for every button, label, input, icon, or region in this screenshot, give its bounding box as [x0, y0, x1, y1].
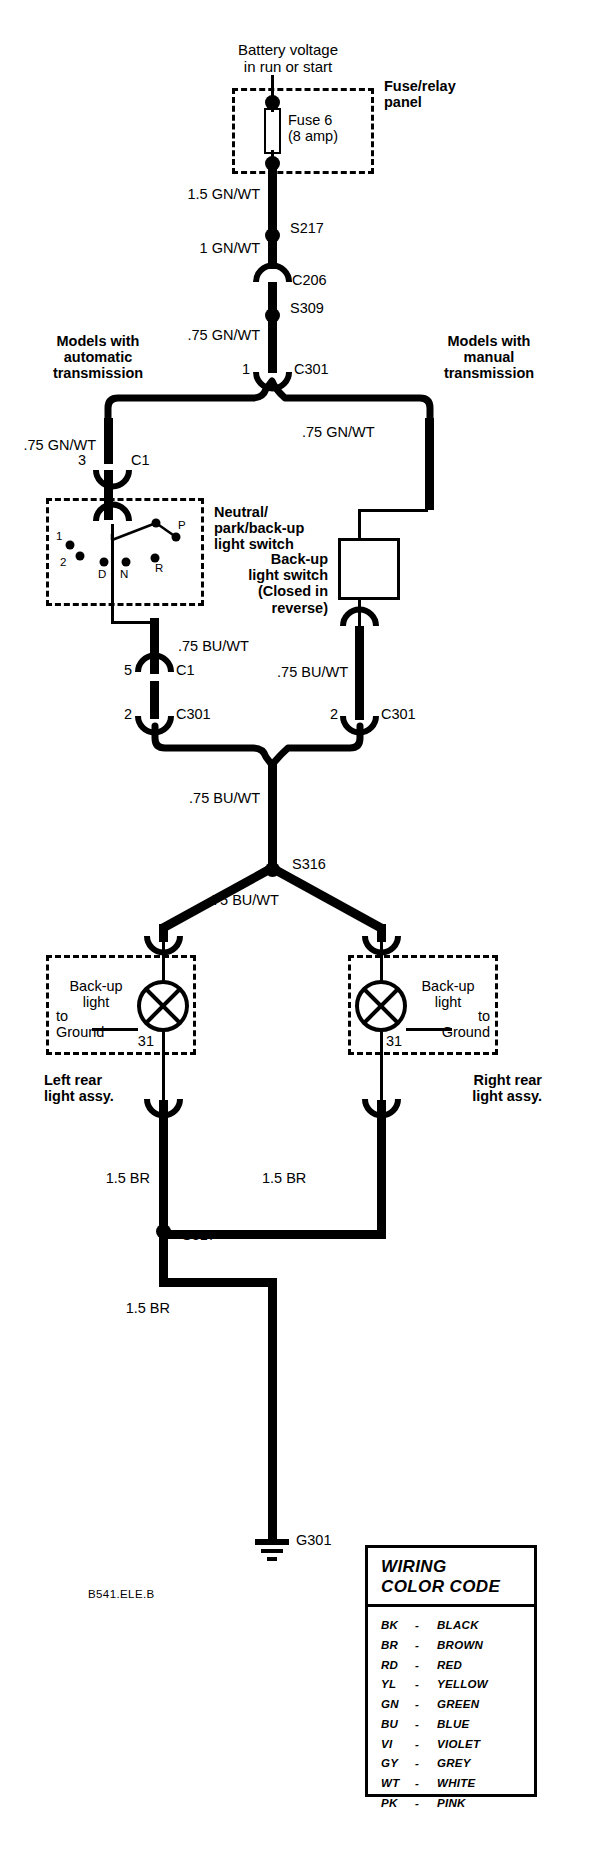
- legend-row: RD-RED: [381, 1656, 534, 1676]
- wire-auto-branch-down: [104, 418, 113, 464]
- legend-color-name: YELLOW: [437, 1675, 488, 1695]
- legend-dash: -: [415, 1735, 437, 1755]
- legend-color-name: PINK: [437, 1794, 466, 1814]
- label-s316: S316: [292, 856, 326, 872]
- switch-position-d: D: [98, 568, 106, 581]
- legend-dash: -: [415, 1636, 437, 1656]
- label-left-pin-31: 31: [118, 1033, 154, 1049]
- legend-dash: -: [415, 1774, 437, 1794]
- wire-auto-to-c301: [150, 681, 159, 719]
- legend-title-line2: COLOR CODE: [381, 1577, 534, 1597]
- legend-color-name: VIOLET: [437, 1735, 480, 1755]
- switch-position-1: 1: [56, 530, 62, 543]
- wire-label-left-1p5-br: 1.5 BR: [76, 1170, 150, 1186]
- legend-row: BR-BROWN: [381, 1636, 534, 1656]
- drawing-id: B541.ELE.B: [88, 1588, 155, 1601]
- label-c301-left: C301: [176, 706, 211, 722]
- wire-label-p75-buwt-trunk: .75 BU/WT: [172, 790, 260, 806]
- legend-row: GY-GREY: [381, 1754, 534, 1774]
- wire-1p5-gnwt: [268, 165, 277, 233]
- legend-row: BU-BLUE: [381, 1715, 534, 1735]
- label-c1-out: C1: [176, 662, 195, 678]
- label-c206: C206: [292, 272, 327, 288]
- label-c301-top: C301: [294, 361, 329, 377]
- wire-backup-switch-out: [358, 598, 361, 628]
- legend-color-name: RED: [437, 1656, 462, 1676]
- legend-dash: -: [415, 1675, 437, 1695]
- wire-to-ground-h: [159, 1278, 272, 1287]
- label-c301-right-pin: 2: [300, 706, 338, 722]
- legend-row: GN-GREEN: [381, 1695, 534, 1715]
- wire-left-1p5-br: [159, 1100, 168, 1238]
- wire-label-p75-buwt-split: .75 BU/WT: [208, 892, 279, 908]
- fuse-6-label: Fuse 6 (8 amp): [288, 112, 338, 144]
- switch-position-2: 2: [60, 556, 66, 569]
- legend-color-name: GREY: [437, 1754, 471, 1774]
- wire-1p5-br-ground: [268, 1278, 277, 1544]
- wire-1-gnwt: [268, 241, 277, 269]
- label-g301: G301: [296, 1532, 331, 1548]
- label-c1-in-pin: 3: [48, 452, 86, 468]
- label-models-manual: Models with manual transmission: [404, 333, 574, 382]
- label-c301-left-pin: 2: [94, 706, 132, 722]
- legend-row: BK-BLACK: [381, 1616, 534, 1636]
- legend-row: WT-WHITE: [381, 1774, 534, 1794]
- label-left-backup-light: Back-up light: [54, 978, 138, 1010]
- legend-abbr: YL: [381, 1675, 415, 1695]
- legend-row: VI-VIOLET: [381, 1735, 534, 1755]
- legend-abbr: BR: [381, 1636, 415, 1656]
- legend-dash: -: [415, 1794, 437, 1814]
- label-right-rear-assy: Right rear light assy.: [370, 1072, 542, 1104]
- legend-abbr: BK: [381, 1616, 415, 1636]
- label-neutral-switch: Neutral/ park/back-up light switch: [214, 504, 304, 553]
- label-right-pin-31: 31: [386, 1033, 402, 1049]
- wire-label-right-1p5-br: 1.5 BR: [262, 1170, 306, 1186]
- legend-dash: -: [415, 1695, 437, 1715]
- wire-fuse-top-link: [271, 100, 274, 112]
- legend-color-name: BLUE: [437, 1715, 470, 1735]
- wire-label-p75-buwt-manual: .75 BU/WT: [252, 664, 348, 680]
- legend-color-name: WHITE: [437, 1774, 476, 1794]
- legend-abbr: PK: [381, 1794, 415, 1814]
- switch-position-r: R: [155, 562, 163, 575]
- legend-color-name: BROWN: [437, 1636, 483, 1656]
- wire-label-p75-gnwt-manual: .75 GN/WT: [302, 424, 375, 440]
- label-s217: S217: [290, 220, 324, 236]
- wiring-color-code-legend: WIRING COLOR CODE BK-BLACKBR-BROWNRD-RED…: [365, 1545, 537, 1797]
- legend-color-name: GREEN: [437, 1695, 479, 1715]
- wire-label-1p5-gnwt: 1.5 GN/WT: [130, 186, 260, 202]
- fuse-relay-panel-label: Fuse/relay panel: [384, 78, 456, 110]
- legend-abbr: VI: [381, 1735, 415, 1755]
- wiring-diagram: Battery voltage in run or start Fuse/rel…: [0, 0, 608, 1858]
- label-right-backup-light: Back-up light: [406, 978, 490, 1010]
- wire-right-ground-stub: [406, 1028, 452, 1031]
- legend-row: YL-YELLOW: [381, 1675, 534, 1695]
- backup-light-switch-box: [338, 538, 400, 600]
- switch-position-n: N: [120, 568, 128, 581]
- wire-p75-buwt-trunk: [268, 764, 277, 874]
- wire-label-1p5-br-ground: 1.5 BR: [96, 1300, 170, 1316]
- neutral-switch-box: [46, 498, 204, 606]
- legend-color-name: BLACK: [437, 1616, 479, 1636]
- wire-manual-branch-down: [425, 418, 434, 510]
- label-c1-out-pin: 5: [94, 662, 132, 678]
- label-models-automatic: Models with automatic transmission: [18, 333, 178, 382]
- wire-p75-buwt-auto: [150, 618, 159, 674]
- switch-position-p: P: [178, 519, 186, 532]
- label-c1-in: C1: [131, 452, 150, 468]
- legend-dash: -: [415, 1715, 437, 1735]
- legend-abbr: BU: [381, 1715, 415, 1735]
- legend-abbr: GY: [381, 1754, 415, 1774]
- wire-manual-switch-jog: [358, 509, 428, 512]
- wire-battery-feed: [271, 75, 274, 97]
- legend-title-line1: WIRING: [381, 1557, 534, 1577]
- fuse-symbol: [264, 108, 281, 154]
- legend-dash: -: [415, 1754, 437, 1774]
- legend-row: PK-PINK: [381, 1794, 534, 1814]
- label-c301-right: C301: [381, 706, 416, 722]
- legend-header: WIRING COLOR CODE: [368, 1548, 534, 1607]
- label-s317: S317: [182, 1227, 216, 1243]
- wire-switch-out-jog: [111, 621, 155, 624]
- legend-abbr: WT: [381, 1774, 415, 1794]
- legend-dash: -: [415, 1656, 437, 1676]
